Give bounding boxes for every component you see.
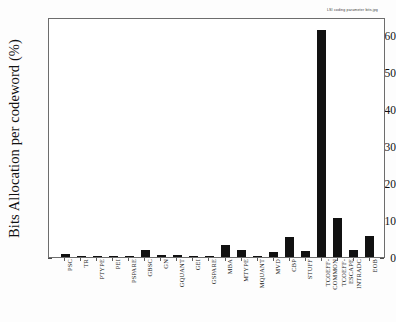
x-axis-tick-mark — [64, 258, 65, 261]
bar — [237, 250, 246, 257]
x-axis-tick-label: TCOEFF-ESCAPE — [341, 259, 354, 286]
bar — [349, 250, 358, 257]
bar — [109, 256, 118, 257]
bar — [317, 30, 326, 257]
header-annotation: LSI coding parameter bits.jpg — [327, 8, 378, 12]
x-axis-tick-label-line: GEI — [194, 259, 201, 270]
x-axis-tick-label-line: EOB — [371, 259, 378, 272]
x-axis-tick-label: EOB — [372, 259, 379, 272]
x-axis-tick-label-line: ESCAPE — [348, 259, 355, 286]
bar — [221, 245, 230, 257]
x-axis-tick-label: MTYPE — [243, 259, 250, 282]
bar — [365, 236, 374, 257]
x-axis-tick-label: STUFF — [307, 259, 314, 279]
x-axis-tick-label: MVD — [275, 259, 282, 275]
figure-bar-chart: Bits Allocation per codeword (%) 0102030… — [0, 0, 396, 322]
y-axis-title-text: Bits Allocation per codeword (%) — [6, 39, 23, 238]
x-axis-tick-label-line: PSPARE — [130, 259, 137, 283]
x-axis-tick-mark — [96, 258, 97, 261]
bar — [125, 256, 134, 257]
x-axis-tick-label-line: COMMON — [332, 259, 339, 290]
x-axis-tick-label-line: GBSC — [146, 259, 153, 277]
bar — [157, 255, 166, 257]
x-axis-tick-label-line: PTYPE — [98, 259, 105, 280]
y-axis-title: Bits Allocation per codeword (%) — [2, 0, 26, 276]
x-axis-tick-label: MQUANT — [259, 259, 266, 288]
plot-area — [48, 18, 385, 258]
x-axis-tick-labels: PSCTRPTYPEPEIPSPAREGBSCGNGQUANTGEIGSPARE… — [48, 259, 385, 321]
x-axis-tick-label: GBSC — [147, 259, 154, 277]
x-axis-tick-label-line: GQUANT — [178, 259, 185, 287]
bar — [189, 256, 198, 257]
x-axis-tick-label-line: MBA — [226, 259, 233, 274]
bar — [333, 218, 342, 258]
x-axis-tick-label: GSPARE — [211, 259, 218, 284]
x-axis-tick-label-line: TCOEFF- — [340, 259, 347, 286]
x-axis-tick-label-line: TCOEFF- — [324, 259, 331, 286]
x-axis-tick-label: PTYPE — [99, 259, 106, 280]
bar — [301, 251, 310, 257]
bar — [141, 250, 150, 257]
x-axis-tick-label-line: MTYPE — [242, 259, 249, 282]
x-axis-tick-label-line: MVD — [274, 259, 281, 275]
x-axis-tick-label-line: INTRADC — [355, 259, 362, 289]
x-axis-tick-mark — [80, 258, 81, 261]
x-axis-tick-label-line: MQUANT — [258, 259, 265, 288]
x-axis-tick-mark — [321, 258, 322, 261]
x-axis-tick-label-line: GN — [162, 259, 169, 269]
x-axis-tick-label: TCOEFF-COMMON — [325, 259, 338, 290]
bar — [77, 256, 86, 257]
x-axis-tick-label: TR — [83, 259, 90, 268]
bar-series — [49, 19, 384, 257]
x-axis-tick-label-line: STUFF — [306, 259, 313, 279]
bar — [93, 256, 102, 257]
x-axis-tick-label: PSPARE — [131, 259, 138, 283]
x-axis-tick-label: PSC — [67, 259, 74, 271]
x-axis-tick-label: GQUANT — [179, 259, 186, 287]
x-axis-tick-label: MBA — [227, 259, 234, 274]
bar — [61, 254, 70, 257]
x-axis-tick-label-line: CBP — [290, 259, 297, 272]
x-axis-tick-label-line: GSPARE — [210, 259, 217, 284]
x-axis-tick-label: GN — [163, 259, 170, 269]
x-axis-tick-label: CBP — [291, 259, 298, 272]
bar — [269, 252, 278, 257]
x-axis-tick-mark — [353, 258, 354, 261]
bar — [253, 256, 262, 257]
bar — [205, 256, 214, 257]
x-axis-tick-mark — [337, 258, 338, 261]
x-axis-tick-label: PEI — [115, 259, 122, 269]
bar — [285, 237, 294, 257]
bar — [173, 255, 182, 257]
x-axis-tick-mark — [369, 258, 370, 261]
x-axis-tick-label-line: TR — [82, 259, 89, 268]
x-axis-tick-label-line: PSC — [66, 259, 73, 271]
x-axis-tick-label: GEI — [195, 259, 202, 270]
x-axis-tick-label-line: PEI — [114, 259, 121, 269]
x-axis-tick-label: INTRADC — [356, 259, 363, 289]
